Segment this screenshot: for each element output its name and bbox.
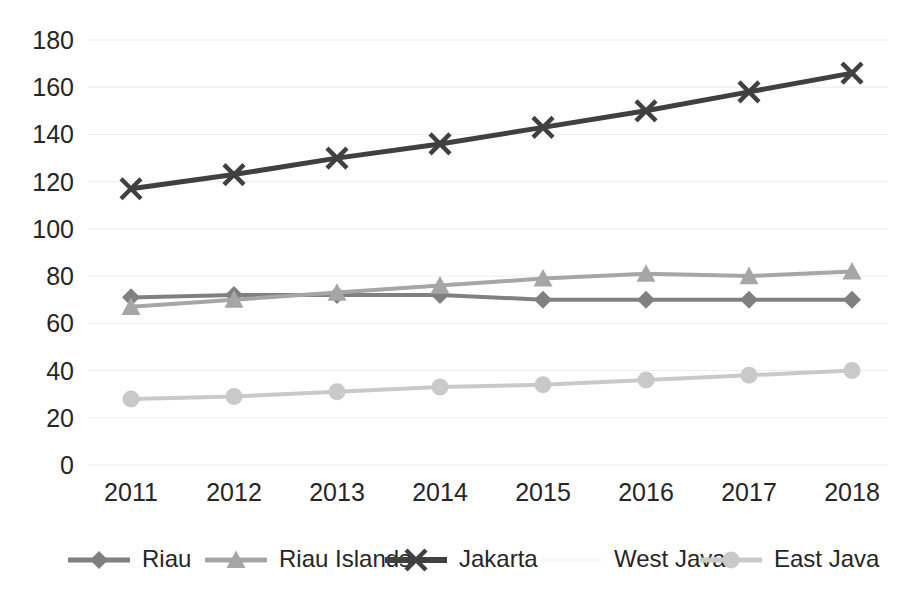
- y-axis-tick-label: 40: [46, 357, 74, 385]
- x-axis-tick-label: 2012: [206, 478, 262, 506]
- y-axis-tick-label: 140: [32, 120, 74, 148]
- data-point-marker-circle: [723, 552, 740, 569]
- y-axis-tick-label: 100: [32, 215, 74, 243]
- data-point-marker-circle: [329, 383, 346, 400]
- legend-item-jakarta[interactable]: Jakarta: [385, 545, 538, 572]
- y-axis-tick-label: 60: [46, 309, 74, 337]
- data-point-marker-circle: [535, 376, 552, 393]
- y-axis-tick-label: 160: [32, 73, 74, 101]
- data-point-marker-circle: [741, 367, 758, 384]
- legend-label: Jakarta: [459, 545, 538, 572]
- x-axis-tick-label: 2016: [618, 478, 674, 506]
- y-axis-tick-label: 180: [32, 26, 74, 54]
- x-axis-tick-label: 2014: [412, 478, 468, 506]
- legend-label: East Java: [774, 545, 880, 572]
- x-axis-tick-label: 2018: [824, 478, 880, 506]
- x-axis-tick-label: 2015: [515, 478, 571, 506]
- data-point-marker-circle: [638, 372, 655, 389]
- data-point-marker-circle: [432, 379, 449, 396]
- data-point-marker-circle: [844, 362, 861, 379]
- y-axis-tick-label: 120: [32, 168, 74, 196]
- y-axis-tick-label: 80: [46, 262, 74, 290]
- legend-label: Riau: [142, 545, 191, 572]
- data-point-marker-circle: [123, 390, 140, 407]
- y-axis-tick-label: 20: [46, 404, 74, 432]
- x-axis-tick-label: 2011: [104, 478, 158, 506]
- line-chart: 020406080100120140160180 201120122013201…: [0, 0, 913, 598]
- x-axis-tick-label: 2017: [721, 478, 777, 506]
- y-axis-tick-label: 0: [60, 451, 74, 479]
- x-axis-tick-label: 2013: [309, 478, 365, 506]
- chart-canvas: 020406080100120140160180 201120122013201…: [0, 0, 913, 598]
- data-point-marker-circle: [226, 388, 243, 405]
